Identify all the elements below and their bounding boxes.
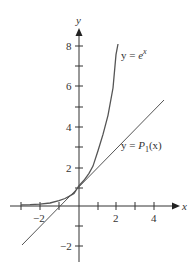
y-tick-label: 6: [66, 80, 72, 92]
series-p1-line: [22, 100, 164, 245]
y-tick-label: −2: [60, 240, 72, 252]
p1-line-label: y = P1(x): [121, 139, 162, 154]
x-tick-label: −2: [33, 212, 45, 224]
x-axis-label: x: [181, 200, 187, 212]
y-tick-label: 4: [66, 121, 72, 133]
chart: y x 8 6 4 2 −2 −2 2 4 y = ex y = P1(x): [0, 0, 196, 270]
x-axis-arrow-icon: [172, 203, 180, 210]
y-tick-label: 2: [66, 162, 72, 174]
y-axis-label: y: [75, 14, 81, 26]
exp-curve-label: y = ex: [121, 47, 147, 61]
x-tick-label: 2: [113, 212, 119, 224]
y-tick-label: 8: [66, 40, 72, 52]
x-tick-label: 4: [151, 212, 157, 224]
y-axis-arrow-icon: [76, 28, 83, 36]
